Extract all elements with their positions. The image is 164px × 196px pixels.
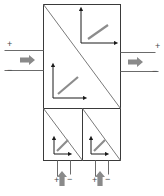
characteristic-curve-icon-lower-right	[91, 138, 107, 154]
bottom-right-port-plus-sign: +	[92, 175, 97, 185]
left-port-minus-sign: −	[7, 65, 12, 75]
diagram-canvas: +−+−+−+−	[0, 0, 164, 196]
upper-converter-cell-diagonal	[44, 5, 121, 109]
characteristic-curve-icon-lower-left	[54, 138, 70, 154]
left-port-plus-sign: +	[7, 39, 12, 49]
converter-block-diagram: +−+−+−+−	[0, 0, 164, 196]
block-outlines	[44, 5, 121, 161]
bottom-left-port-minus-sign: −	[67, 174, 72, 184]
characteristic-curve-icon-upper-right-segment	[88, 25, 108, 39]
lower-left-converter-cell-diagonal	[44, 109, 83, 161]
right-port-minus-sign: −	[152, 66, 157, 76]
right-port-flow-arrow	[128, 57, 143, 67]
characteristic-curve-icon-middle-left	[53, 65, 85, 98]
characteristic-curve-icon-middle-left-segment	[58, 77, 78, 94]
right-port-plus-sign: +	[155, 41, 160, 51]
bottom-left-port-plus-sign: +	[54, 175, 59, 185]
bottom-right-port-minus-sign: −	[105, 174, 110, 184]
characteristic-curve-icon-upper-right	[81, 9, 116, 43]
characteristic-curve-icon-lower-left-segment	[57, 140, 68, 151]
characteristic-curve-icon-lower-right-segment	[94, 140, 105, 151]
left-port-flow-arrow	[20, 55, 35, 65]
port-terminals	[5, 51, 159, 187]
lower-right-converter-cell-diagonal	[83, 109, 121, 161]
